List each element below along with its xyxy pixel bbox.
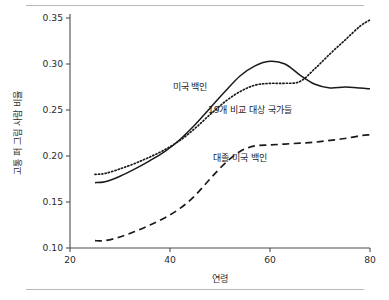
y-tick-label: 0.10 [43, 242, 64, 253]
series-group [95, 20, 370, 241]
y-tick-label: 0.30 [43, 58, 64, 69]
x-tick-label: 40 [164, 254, 176, 265]
y-axis-title: 고통 퍼 그림 사람 비율 [12, 91, 23, 175]
x-axis-title: 연령 [212, 273, 228, 284]
series-line-2 [95, 20, 370, 175]
y-tick-label: 0.20 [43, 150, 64, 161]
series-line-1 [95, 61, 370, 183]
series-label-1: 미국 백인 [173, 82, 208, 92]
x-tick-label: 60 [264, 254, 276, 265]
axes-group: 0.100.150.200.250.300.3520406080연령고통 퍼 그… [12, 12, 376, 284]
x-tick-label: 20 [64, 254, 76, 265]
y-tick-label: 0.35 [43, 12, 64, 23]
y-tick-label: 0.25 [43, 104, 64, 115]
series-label-2: 19개 비교 대상 국가들 [208, 105, 292, 115]
series-label-3: 대졸 미국 백인 [213, 153, 267, 163]
y-tick-label: 0.15 [43, 196, 64, 207]
series-line-3 [95, 135, 370, 241]
series-labels-group: 미국 백인19개 비교 대상 국가들대졸 미국 백인 [173, 82, 292, 163]
chart-figure: 0.100.150.200.250.300.3520406080연령고통 퍼 그… [0, 0, 389, 300]
x-tick-label: 80 [364, 254, 376, 265]
line-chart: 0.100.150.200.250.300.3520406080연령고통 퍼 그… [0, 0, 389, 300]
